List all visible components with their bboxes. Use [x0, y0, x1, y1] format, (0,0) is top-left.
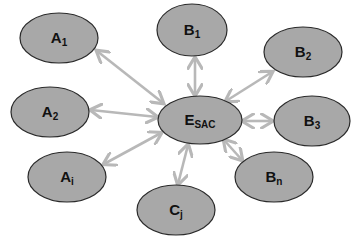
node-A1: A1: [20, 13, 98, 63]
nodes-group: A1A2AiB1B2B3BnCjESAC: [11, 4, 350, 235]
double-arrow-E_SAC-A2: [91, 110, 157, 117]
node-Ai: Ai: [28, 152, 106, 202]
double-arrow-E_SAC-B2: [226, 72, 272, 101]
double-arrow-E_SAC-Cj: [178, 145, 188, 184]
node-Bn: Bn: [235, 152, 313, 202]
hub-node-E_SAC: ESAC: [158, 96, 242, 144]
node-B3: B3: [274, 96, 350, 146]
hub-spoke-diagram: A1A2AiB1B2B3BnCjESAC: [0, 0, 359, 240]
double-arrow-E_SAC-Ai: [104, 133, 161, 164]
node-Cj: Cj: [137, 185, 215, 235]
node-B1: B1: [157, 4, 227, 56]
double-arrow-E_SAC-A1: [97, 51, 163, 103]
node-B2: B2: [264, 27, 342, 77]
double-arrow-E_SAC-Bn: [224, 140, 242, 160]
node-A2: A2: [11, 87, 89, 137]
